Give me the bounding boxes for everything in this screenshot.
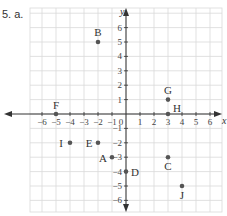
- point-a: [110, 155, 115, 160]
- y-tick-label: −6: [112, 195, 122, 205]
- point-label-a: A: [99, 152, 107, 164]
- x-tick-label: −4: [65, 117, 75, 127]
- y-tick-label: −4: [112, 167, 122, 177]
- x-tick-label: −5: [51, 117, 61, 127]
- x-tick-label: 2: [152, 117, 157, 127]
- x-axis-left-arrow-icon: [4, 111, 12, 117]
- x-axis-right-arrow-icon: [214, 111, 222, 117]
- y-axis-down-arrow-icon: [123, 204, 129, 212]
- x-tick-label: 5: [194, 117, 199, 127]
- y-tick-label: −5: [112, 181, 122, 191]
- x-tick-label: −2: [93, 117, 103, 127]
- point-g: [166, 97, 171, 102]
- point-b: [96, 40, 101, 45]
- x-tick-label: 4: [180, 117, 185, 127]
- origin-label: 0: [119, 117, 124, 127]
- x-axis-label: x: [221, 115, 227, 126]
- point-label-d: D: [131, 166, 139, 178]
- point-label-f: F: [53, 99, 59, 111]
- point-f: [54, 112, 59, 117]
- point-label-j: J: [180, 189, 185, 201]
- point-label-g: G: [164, 84, 172, 96]
- x-tick-label: 1: [138, 117, 143, 127]
- y-tick-label: 6: [118, 23, 123, 33]
- point-label-i: I: [59, 137, 63, 149]
- x-tick-label: 6: [208, 117, 213, 127]
- x-tick-label: −3: [79, 117, 89, 127]
- coordinate-plane: xy−6−5−4−3−2−1123456−6−5−4−3−2−11234560A…: [0, 0, 227, 216]
- y-tick-label: 5: [118, 37, 123, 47]
- point-h: [166, 112, 171, 117]
- point-label-e: E: [86, 137, 93, 149]
- y-axis-label: y: [119, 6, 125, 17]
- y-tick-label: −2: [112, 138, 122, 148]
- point-label-b: B: [94, 26, 101, 38]
- x-tick-label: −6: [37, 117, 47, 127]
- y-tick-label: 4: [118, 51, 123, 61]
- y-tick-label: 2: [118, 80, 123, 90]
- point-j: [180, 184, 185, 189]
- x-tick-label: 3: [166, 117, 171, 127]
- y-tick-label: 3: [118, 66, 123, 76]
- point-c: [166, 155, 171, 160]
- y-tick-label: 1: [118, 95, 123, 105]
- point-i: [68, 141, 73, 146]
- point-e: [96, 141, 101, 146]
- point-label-h: H: [173, 102, 181, 114]
- point-label-c: C: [164, 160, 171, 172]
- point-d: [124, 169, 129, 174]
